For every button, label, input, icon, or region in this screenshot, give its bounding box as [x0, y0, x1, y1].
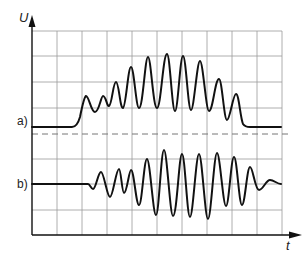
- grid: [32, 31, 282, 235]
- axes: [32, 22, 290, 235]
- trace-b-label: b): [17, 178, 28, 190]
- y-axis-label: U: [19, 12, 28, 24]
- y-axis-arrow-icon: [29, 15, 36, 27]
- x-axis-arrow-icon: [289, 232, 302, 239]
- trace-a-curve: [32, 54, 281, 127]
- trace-b-curve: [32, 150, 281, 219]
- x-axis-label: t: [286, 240, 290, 252]
- oscilloscope-diagram: [0, 0, 308, 257]
- trace-a-label: a): [17, 115, 28, 127]
